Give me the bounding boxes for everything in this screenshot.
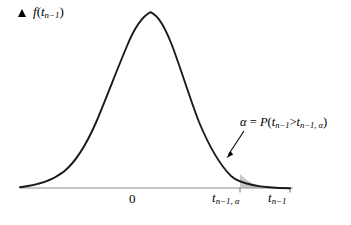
x-axis-variable-label: tn−1: [268, 191, 286, 206]
axis-variable-sub: n−1: [272, 196, 287, 206]
t-distribution-figure: f(tn−1) 0 tn−1, α tn−1 α = P(tn−1>tn−1, …: [0, 0, 351, 225]
shaded-tail-region: [240, 174, 290, 188]
y-axis-label: f(tn−1): [33, 5, 64, 20]
y-axis-caption: f(tn−1): [18, 5, 64, 20]
alpha-probability-annotation: α = P(tn−1>tn−1, α): [240, 116, 327, 130]
annotation-sub2: n−1, α: [300, 120, 323, 130]
density-curve: [20, 12, 290, 188]
annotation-close: ): [323, 115, 327, 129]
critical-label-sub: n−1, α: [216, 196, 240, 206]
x-tick-label-critical-value: tn−1, α: [212, 191, 239, 206]
annotation-equals: =: [247, 115, 260, 129]
annotation-prob: P: [260, 115, 268, 129]
distribution-plot: [0, 0, 351, 225]
annotation-sub1: n−1: [275, 120, 289, 130]
alpha-leader-arrow: [227, 131, 245, 158]
x-tick-label-zero: 0: [129, 192, 136, 205]
y-axis-label-close: ): [59, 4, 63, 19]
y-axis-label-sub: n−1: [45, 10, 60, 20]
up-triangle-icon: [18, 9, 26, 17]
